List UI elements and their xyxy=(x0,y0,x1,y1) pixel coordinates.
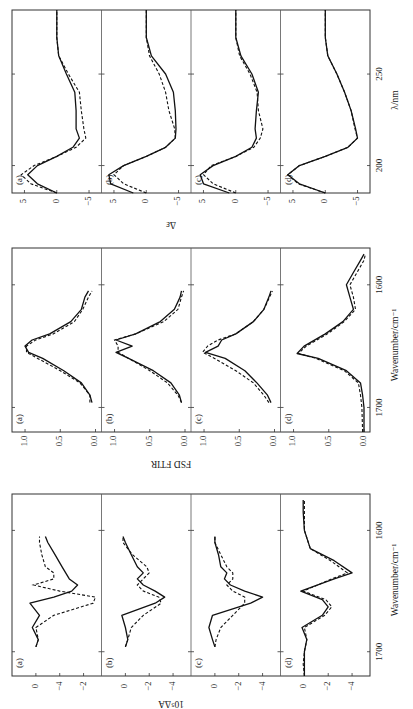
solid-line xyxy=(30,537,78,647)
y-tick-label: −5 xyxy=(83,196,93,205)
dashed-line xyxy=(203,291,273,403)
y-axis-label: 10⁵ΔA xyxy=(158,699,184,709)
solid-line xyxy=(209,537,263,647)
y-tick-label: −2 xyxy=(143,681,153,690)
solid-line xyxy=(109,10,176,193)
y-tick-label: 0 xyxy=(30,684,40,688)
y-tick-label: 1.0 xyxy=(19,436,29,447)
dashed-line xyxy=(114,10,175,193)
x-axis-label: Wavenumber/cm⁻¹ xyxy=(390,544,400,617)
panel-label: (c) xyxy=(193,658,203,668)
panel-label: (d) xyxy=(283,175,293,186)
panel-label: (c) xyxy=(193,414,203,424)
y-tick-label: 0.0 xyxy=(268,436,278,447)
y-tick-label: 0.0 xyxy=(89,436,99,447)
rotated-figure: (a)50−5(b)50−5(c)50−5(d)50−5200250λ/nmΔε… xyxy=(0,0,413,709)
y-tick-label: 0.5 xyxy=(144,436,154,447)
y-tick-label: −2 xyxy=(78,681,88,690)
x-tick-label: 1700 xyxy=(374,642,384,661)
y-tick-label: 0.0 xyxy=(179,436,189,447)
y-tick-label: 0 xyxy=(51,199,61,203)
panel-label: (a) xyxy=(14,658,24,668)
y-tick-label: 0 xyxy=(319,199,329,203)
y-tick-label: 5 xyxy=(287,199,297,203)
solid-line xyxy=(25,291,92,403)
x-tick-label: 1600 xyxy=(374,521,384,540)
y-tick-label: −4 xyxy=(54,681,64,691)
figure-canvas: (a)50−5(b)50−5(c)50−5(d)50−5200250λ/nmΔε… xyxy=(0,0,413,709)
y-tick-label: 0 xyxy=(209,684,219,688)
plot-block-1: (a)1.00.50.0(b)1.00.50.0(c)1.00.50.0(d)1… xyxy=(12,248,400,469)
x-tick-label: 1600 xyxy=(374,275,384,294)
y-tick-label: 0 xyxy=(119,684,129,688)
solid-line xyxy=(206,291,272,403)
y-tick-label: −5 xyxy=(172,196,182,205)
panel-label: (a) xyxy=(14,414,24,424)
panel-label: (b) xyxy=(104,658,114,669)
dashed-line xyxy=(34,537,96,647)
y-tick-label: 0.0 xyxy=(358,436,368,447)
panel-label: (d) xyxy=(283,414,293,425)
dashed-line xyxy=(204,10,263,193)
y-tick-label: 0 xyxy=(298,684,308,688)
x-tick-label: 250 xyxy=(374,67,384,81)
x-axis-label: Wavenumber/cm⁻¹ xyxy=(390,309,400,382)
y-tick-label: −4 xyxy=(346,681,356,691)
y-tick-label: 0 xyxy=(230,199,240,203)
solid-line xyxy=(288,10,358,193)
y-tick-label: 5 xyxy=(108,199,118,203)
panel-label: (b) xyxy=(104,414,114,425)
y-axis-label: Δε xyxy=(166,220,176,230)
dashed-line xyxy=(215,537,245,647)
y-tick-label: −2 xyxy=(233,681,243,690)
y-tick-label: 1.0 xyxy=(287,436,297,447)
panel-label: (d) xyxy=(283,658,293,669)
solid-line xyxy=(297,254,364,432)
y-tick-label: 0.5 xyxy=(233,436,243,447)
panel-label: (a) xyxy=(14,175,24,185)
y-tick-label: 1.0 xyxy=(108,436,118,447)
solid-line xyxy=(116,291,182,403)
y-tick-label: 0.5 xyxy=(54,436,64,447)
x-tick-label: 1700 xyxy=(374,398,384,417)
plot-block-2: (a)0−4−2(b)0−2−4(c)0−2−4(d)0−2−417001600… xyxy=(12,494,400,709)
y-tick-label: −5 xyxy=(262,196,272,205)
y-tick-label: 0 xyxy=(140,199,150,203)
y-tick-label: 5 xyxy=(197,199,207,203)
solid-line xyxy=(301,500,352,676)
y-tick-label: −2 xyxy=(322,681,332,690)
y-tick-label: −5 xyxy=(351,196,361,205)
plot-block-0: (a)50−5(b)50−5(c)50−5(d)50−5200250λ/nmΔε xyxy=(12,10,400,230)
solid-line xyxy=(122,537,165,647)
y-tick-label: −4 xyxy=(257,681,267,691)
y-tick-label: −4 xyxy=(167,681,177,691)
y-tick-label: 5 xyxy=(18,199,28,203)
y-tick-label: 0.5 xyxy=(323,436,333,447)
x-tick-label: 200 xyxy=(374,158,384,172)
dashed-line xyxy=(288,10,358,193)
dashed-line xyxy=(21,10,86,193)
x-axis-label: λ/nm xyxy=(390,90,400,110)
y-axis-label: FSD FTIR xyxy=(150,459,191,469)
solid-line xyxy=(200,10,258,193)
y-tick-label: 1.0 xyxy=(198,436,208,447)
